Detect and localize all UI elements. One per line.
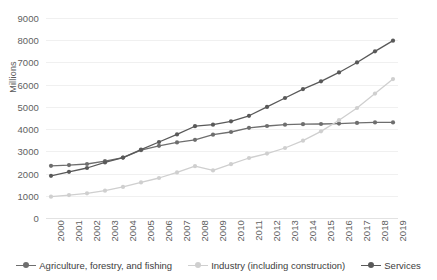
data-point (265, 151, 269, 155)
x-tick-label: 2018 (379, 220, 390, 242)
data-point (319, 129, 323, 133)
y-tick-label: 4000 (17, 124, 39, 135)
x-tick-label: 2005 (145, 220, 156, 242)
data-point (157, 176, 161, 180)
y-tick-label: 3000 (17, 146, 39, 157)
data-point (211, 168, 215, 172)
data-point (67, 170, 71, 174)
legend-item[interactable]: Industry (including construction) (188, 260, 345, 271)
y-tick-label: 0 (34, 213, 39, 224)
data-point (139, 180, 143, 184)
data-point (391, 120, 395, 124)
data-point (121, 185, 125, 189)
x-tick-label: 2015 (325, 220, 336, 242)
series-3 (49, 39, 395, 178)
data-point (355, 106, 359, 110)
y-tick-label: 6000 (17, 79, 39, 90)
data-point (67, 163, 71, 167)
data-point (103, 160, 107, 164)
x-tick-label: 2000 (55, 220, 66, 242)
data-point (175, 132, 179, 136)
series-1 (49, 120, 395, 168)
data-point (139, 147, 143, 151)
x-tick-label: 2019 (397, 220, 408, 242)
legend-label: Industry (including construction) (211, 260, 345, 271)
x-tick-label: 2013 (289, 220, 300, 242)
data-point (283, 123, 287, 127)
data-point (49, 164, 53, 168)
data-point (337, 118, 341, 122)
data-point (373, 91, 377, 95)
data-point (373, 120, 377, 124)
x-tick-label: 2007 (181, 220, 192, 242)
x-tick-label: 2010 (235, 220, 246, 242)
y-axis-tick-labels: 0100020003000400050006000700080009000 (0, 18, 44, 218)
legend-marker-icon (188, 261, 208, 270)
legend-label: Services (384, 260, 420, 271)
data-point (193, 138, 197, 142)
legend-marker-icon (16, 261, 36, 270)
data-point (301, 139, 305, 143)
legend-item[interactable]: Agriculture, forestry, and fishing (16, 260, 172, 271)
x-tick-label: 2003 (109, 220, 120, 242)
data-point (301, 122, 305, 126)
data-point (211, 133, 215, 137)
data-point (319, 79, 323, 83)
y-tick-label: 8000 (17, 35, 39, 46)
plot-area (46, 18, 398, 218)
data-point (391, 77, 395, 81)
x-tick-label: 2008 (199, 220, 210, 242)
legend-marker-icon (361, 261, 381, 270)
data-point (283, 146, 287, 150)
data-point (175, 140, 179, 144)
gridline (46, 218, 398, 219)
data-point (229, 130, 233, 134)
data-point (229, 119, 233, 123)
x-tick-label: 2016 (343, 220, 354, 242)
data-point (247, 126, 251, 130)
y-tick-label: 9000 (17, 13, 39, 24)
x-axis-tick-labels: 2000200120022003200420052006200720082009… (46, 220, 398, 252)
x-tick-label: 2001 (73, 220, 84, 242)
series-2 (49, 77, 395, 199)
data-point (355, 60, 359, 64)
x-tick-label: 2011 (253, 220, 264, 241)
data-point (247, 114, 251, 118)
data-point (301, 87, 305, 91)
legend-item[interactable]: Services (361, 260, 420, 271)
data-point (373, 49, 377, 53)
chart-legend: Agriculture, forestry, and fishingIndust… (0, 256, 437, 274)
x-tick-label: 2017 (361, 220, 372, 242)
data-point (265, 105, 269, 109)
data-point (85, 162, 89, 166)
series-line (51, 79, 393, 197)
series-layer (46, 18, 398, 218)
x-tick-label: 2009 (217, 220, 228, 242)
x-tick-label: 2002 (91, 220, 102, 242)
data-point (265, 124, 269, 128)
data-point (85, 166, 89, 170)
data-point (247, 156, 251, 160)
data-point (211, 123, 215, 127)
data-point (337, 70, 341, 74)
line-chart: Millions 0100020003000400050006000700080… (0, 0, 437, 280)
data-point (355, 121, 359, 125)
x-tick-label: 2004 (127, 220, 138, 242)
data-point (49, 174, 53, 178)
data-point (157, 144, 161, 148)
series-line (51, 122, 393, 165)
data-point (157, 140, 161, 144)
data-point (67, 193, 71, 197)
x-tick-label: 2006 (163, 220, 174, 242)
data-point (49, 195, 53, 199)
y-tick-label: 1000 (17, 190, 39, 201)
data-point (193, 124, 197, 128)
y-tick-label: 7000 (17, 57, 39, 68)
data-point (391, 39, 395, 43)
data-point (193, 164, 197, 168)
series-line (51, 41, 393, 176)
y-tick-label: 2000 (17, 168, 39, 179)
x-tick-label: 2012 (271, 220, 282, 242)
y-tick-label: 5000 (17, 101, 39, 112)
legend-label: Agriculture, forestry, and fishing (39, 260, 172, 271)
